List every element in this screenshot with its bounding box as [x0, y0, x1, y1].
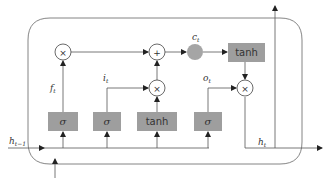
svg-text:ot: ot: [203, 73, 211, 84]
output-gate-label: σ: [205, 116, 213, 127]
svg-text:+: +: [153, 48, 161, 58]
cell-state-node: [187, 44, 203, 60]
candidate-gate-label: tanh: [146, 116, 169, 127]
svg-text:×: ×: [153, 84, 161, 94]
svg-text:×: ×: [241, 84, 249, 94]
forget-gate-label: σ: [60, 116, 68, 127]
svg-text:it: it: [103, 73, 109, 84]
input-gate-label: σ: [104, 116, 112, 127]
svg-text:ft: ft: [49, 83, 56, 94]
svg-text:ht−1: ht−1: [9, 136, 26, 147]
svg-text:ht: ht: [258, 137, 267, 148]
svg-text:tanh: tanh: [235, 47, 258, 58]
svg-text:×: ×: [59, 48, 67, 58]
lstm-diagram: σ σ tanh σ ft it ot ht × + × × ct tanh h: [0, 0, 330, 184]
svg-text:ct: ct: [192, 32, 200, 43]
